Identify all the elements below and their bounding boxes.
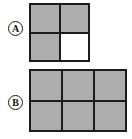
grid-b-cell-r1c3 [95, 71, 125, 100]
grid-a-cell-r2c1 [31, 34, 59, 61]
grid-a-cell-r1c1 [31, 5, 59, 32]
grid-a-cell-r2c2 [61, 34, 89, 61]
grid-b-cell-r2c2 [63, 102, 93, 131]
grid-a-cell-r1c2 [61, 5, 89, 32]
panel-label-b: B [8, 95, 23, 110]
panel-label-a: A [8, 21, 23, 36]
grid-b-cell-r2c1 [31, 102, 61, 131]
grid-b [29, 69, 127, 132]
figure-root: A B [0, 0, 132, 139]
grid-b-cell-r1c1 [31, 71, 61, 100]
grid-b-cell-r1c2 [63, 71, 93, 100]
grid-a [29, 3, 90, 62]
grid-b-cell-r2c3 [95, 102, 125, 131]
